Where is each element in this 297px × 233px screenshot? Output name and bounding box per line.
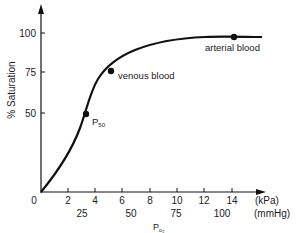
x-mmhg-label: 25	[76, 208, 88, 219]
arterial-blood-label: arterial blood	[205, 42, 260, 53]
y-tick-label: 75	[25, 67, 37, 78]
y-tick-label: 100	[19, 28, 36, 39]
x-tick-label: 2	[65, 195, 71, 206]
x-tick-label: 14	[226, 195, 238, 206]
x-tick-label: 4	[92, 195, 98, 206]
p50-label: P50	[92, 116, 106, 128]
y-axis-arrow-icon	[38, 4, 44, 14]
x-tick-label: 10	[171, 195, 183, 206]
x-tick-label: 6	[119, 195, 125, 206]
venous-blood-label: venous blood	[118, 70, 175, 81]
venous-blood-point	[108, 68, 114, 74]
dissociation-curve	[41, 37, 262, 192]
x-units-kpa: (kPa)	[255, 195, 279, 206]
x-units-mmhg: (mmHg)	[254, 208, 290, 219]
y-tick-label: 50	[25, 108, 37, 119]
x-mmhg-label: 100	[214, 208, 231, 219]
x-tick-label: 12	[198, 195, 210, 206]
arterial-blood-point	[231, 34, 237, 40]
x-axis-label: Po₂	[153, 222, 165, 233]
x-tick-label: 8	[147, 195, 153, 206]
x-tick-label: 0	[31, 195, 37, 206]
oxygen-dissociation-chart: 100 75 50 % Saturation 0 2 4 6 8 10 12 1…	[0, 0, 297, 233]
p50-point	[83, 111, 89, 117]
y-axis-label: % Saturation	[6, 61, 17, 118]
x-mmhg-label: 50	[125, 208, 137, 219]
x-mmhg-label: 75	[170, 208, 182, 219]
